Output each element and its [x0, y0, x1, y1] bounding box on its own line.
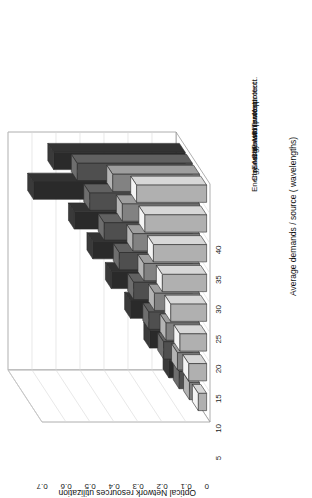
- x-axis-tick-label: 30: [214, 302, 223, 316]
- legend-item: Closest IT w/o protect.: [250, 80, 259, 159]
- bar: [131, 176, 207, 202]
- x-axis-tick-label: 5: [214, 451, 223, 465]
- y-axis-tick-label: 0.3: [133, 482, 153, 491]
- y-axis-tick-label: 0.4: [109, 482, 129, 491]
- x-axis-tick-label: 40: [214, 243, 223, 257]
- plot-area: [14, 68, 246, 440]
- chart-3d-scene: [14, 68, 246, 440]
- bar: [174, 325, 207, 351]
- x-axis-tick-label: 35: [214, 273, 223, 287]
- y-axis-tick-label: 0.6: [61, 482, 81, 491]
- bar: [156, 265, 206, 291]
- y-axis-tick-label: 0.7: [37, 482, 57, 491]
- bar: [183, 355, 207, 381]
- y-axis-tick-label: 0.5: [85, 482, 105, 491]
- bar: [165, 295, 207, 321]
- x-axis-tick-label: 15: [214, 392, 223, 406]
- x-axis-tick-label: 10: [214, 421, 223, 435]
- bar: [148, 236, 207, 262]
- x-axis-tick-label: 20: [214, 362, 223, 376]
- bar: [139, 206, 207, 232]
- x-axis-tick-label: 25: [214, 332, 223, 346]
- y-axis-tick-label: 0.1: [181, 482, 201, 491]
- x-axis-title: Average demands / source ( wavelengths): [288, 137, 298, 296]
- y-axis-tick-label: 0.2: [157, 482, 177, 491]
- y-axis-tick-label: 0: [205, 482, 225, 491]
